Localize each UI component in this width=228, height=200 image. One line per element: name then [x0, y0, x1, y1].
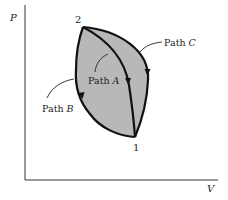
point-2-label: 2	[75, 14, 81, 25]
path-c-label-prefix: Path	[164, 37, 189, 48]
point-1-label: 1	[133, 142, 139, 153]
path-c-label-var: C	[189, 37, 197, 48]
path-c-leader	[140, 42, 162, 52]
path-b-leader	[47, 79, 74, 98]
path-a-label-var: A	[112, 75, 120, 86]
pv-diagram: P V 2 1 Path C Path A Path B	[0, 0, 228, 200]
path-b-label: Path B	[42, 103, 74, 114]
path-a-label-prefix: Path	[88, 75, 113, 86]
path-c-label: Path C	[164, 37, 197, 48]
y-axis-label: P	[9, 12, 17, 23]
path-a-label: Path A	[88, 75, 120, 86]
path-b-label-var: B	[66, 103, 74, 114]
x-axis-label: V	[207, 183, 216, 194]
path-b-label-prefix: Path	[42, 103, 67, 114]
